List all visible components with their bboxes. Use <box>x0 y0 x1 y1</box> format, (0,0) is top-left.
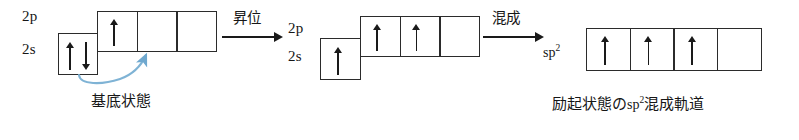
electron-arrow-up <box>687 36 696 65</box>
promotion-step-label: 昇位 <box>233 6 261 27</box>
electron-arrow-up <box>600 36 609 65</box>
electron-arrow-up <box>333 47 342 75</box>
orbital-box <box>717 28 762 71</box>
excited-state-2p-boxes <box>360 16 480 57</box>
caption-sp-base: sp <box>627 97 639 112</box>
ground-state-2p-label: 2p <box>22 8 37 25</box>
orbital-box <box>176 11 217 52</box>
excited-state-2s-boxes <box>320 38 361 80</box>
electron-arrow-up <box>644 36 653 65</box>
orbital-box <box>320 38 361 80</box>
electron-arrow-up <box>412 24 421 51</box>
electron-promotion-curve-icon <box>76 38 176 86</box>
orbital-energy-diagram: 2p 2s 基底状態 昇位 <box>0 0 799 140</box>
hybrid-state-caption: 励起状態のsp2混成軌道 <box>552 92 704 113</box>
caption-suffix: 混成軌道 <box>644 95 704 113</box>
orbital-box <box>630 28 675 71</box>
hybridization-step-label: 混成 <box>492 6 520 27</box>
excited-state-2p-label: 2p <box>288 20 303 37</box>
hybridization-arrow-icon <box>483 32 545 42</box>
promotion-arrow-icon <box>222 32 284 42</box>
electron-arrow-up <box>372 24 381 51</box>
orbital-box <box>439 16 480 57</box>
orbital-box <box>360 16 401 57</box>
excited-state-2s-label: 2s <box>288 48 302 65</box>
orbital-box <box>673 28 718 71</box>
ground-state-2s-label: 2s <box>22 41 36 58</box>
electron-arrow-up <box>65 42 74 70</box>
sp2-orbital-label: sp2 <box>543 43 560 61</box>
caption-prefix: 励起状態の <box>552 95 627 113</box>
caption-sp-term: sp2 <box>627 97 644 112</box>
orbital-box <box>400 16 441 57</box>
sp2-hybrid-boxes <box>586 28 762 71</box>
orbital-box <box>586 28 631 71</box>
sp2-label-superscript: 2 <box>555 43 560 53</box>
sp2-label-base: sp <box>543 45 555 60</box>
ground-state-caption: 基底状態 <box>91 89 151 110</box>
